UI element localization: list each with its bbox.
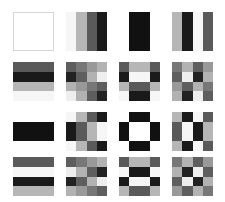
basis-pixel <box>66 91 76 101</box>
basis-pixel <box>87 62 97 72</box>
basis-cell-2-0 <box>13 112 54 151</box>
basis-pixel <box>97 157 107 167</box>
basis-pixel <box>76 177 86 187</box>
basis-pixel <box>193 12 203 22</box>
basis-pixel <box>140 32 150 42</box>
basis-pixel <box>44 82 54 92</box>
basis-pixel <box>172 132 182 142</box>
basis-pixel <box>66 82 76 92</box>
basis-pixel <box>23 186 33 196</box>
basis-pixel <box>66 41 76 51</box>
basis-pixel <box>66 177 76 187</box>
basis-cell-3-1 <box>66 157 107 196</box>
basis-pixel <box>140 41 150 51</box>
basis-pixel <box>140 122 150 132</box>
basis-pixel <box>182 72 192 82</box>
basis-pixel <box>119 177 129 187</box>
basis-pixel <box>182 132 192 142</box>
basis-pixel <box>193 22 203 32</box>
basis-pixel <box>34 132 44 142</box>
basis-pixel <box>203 12 213 22</box>
basis-pixel <box>13 82 23 92</box>
basis-pixel <box>66 141 76 151</box>
basis-pixel <box>193 186 203 196</box>
basis-pixel <box>23 167 33 177</box>
basis-pixel <box>203 91 213 101</box>
basis-pixel <box>13 157 23 167</box>
basis-pixel <box>24 41 34 50</box>
basis-pixel <box>203 82 213 92</box>
basis-pixel <box>172 91 182 101</box>
basis-pixel <box>87 82 97 92</box>
basis-pixel <box>44 112 54 122</box>
basis-pixel <box>76 32 86 42</box>
basis-pixel <box>34 141 44 151</box>
basis-pixel <box>182 12 192 22</box>
basis-pixel <box>13 112 23 122</box>
basis-pixel <box>140 82 150 92</box>
basis-pixel <box>150 62 160 72</box>
basis-pixel <box>76 41 86 51</box>
basis-pixel <box>182 186 192 196</box>
basis-pixel <box>13 177 23 187</box>
basis-pixel <box>13 122 23 132</box>
basis-pixel <box>76 91 86 101</box>
basis-cell-1-1 <box>66 62 107 101</box>
basis-pixel <box>43 22 53 31</box>
basis-pixel <box>193 122 203 132</box>
basis-pixel <box>76 82 86 92</box>
basis-pixel <box>150 177 160 187</box>
basis-pixel <box>24 13 34 22</box>
basis-pixel <box>87 157 97 167</box>
basis-pixel <box>87 177 97 187</box>
basis-pixel <box>14 22 24 31</box>
basis-pixel <box>97 112 107 122</box>
basis-pixel <box>97 122 107 132</box>
basis-pixel <box>97 177 107 187</box>
basis-pixel <box>140 186 150 196</box>
basis-pixel <box>66 12 76 22</box>
basis-pixel <box>34 82 44 92</box>
basis-pixel <box>193 32 203 42</box>
basis-pixel <box>76 112 86 122</box>
basis-pixel <box>43 41 53 50</box>
basis-pixel <box>203 132 213 142</box>
basis-pixel <box>203 122 213 132</box>
basis-pixel <box>34 157 44 167</box>
basis-pixel <box>150 122 160 132</box>
basis-pixel <box>203 62 213 72</box>
basis-pixel <box>97 22 107 32</box>
basis-pixel <box>129 82 139 92</box>
basis-pixel <box>66 32 76 42</box>
basis-pixel <box>129 62 139 72</box>
basis-pixel <box>87 72 97 82</box>
basis-pixel <box>14 32 24 41</box>
basis-cell-0-0 <box>13 12 54 51</box>
basis-pixel <box>76 167 86 177</box>
basis-pixel <box>193 82 203 92</box>
basis-pixel <box>34 112 44 122</box>
basis-pixel <box>76 132 86 142</box>
basis-pixel <box>129 122 139 132</box>
dct-basis-grid <box>0 0 225 202</box>
basis-pixel <box>140 132 150 142</box>
basis-pixel <box>203 141 213 151</box>
basis-pixel <box>76 72 86 82</box>
basis-pixel <box>172 22 182 32</box>
basis-pixel <box>129 177 139 187</box>
basis-pixel <box>23 157 33 167</box>
basis-pixel <box>97 72 107 82</box>
basis-pixel <box>23 141 33 151</box>
basis-cell-1-2 <box>119 62 160 101</box>
basis-pixel <box>66 62 76 72</box>
basis-pixel <box>129 41 139 51</box>
basis-pixel <box>119 41 129 51</box>
basis-pixel <box>44 186 54 196</box>
basis-pixel <box>119 186 129 196</box>
basis-pixel <box>87 91 97 101</box>
basis-pixel <box>23 91 33 101</box>
basis-pixel <box>140 141 150 151</box>
basis-pixel <box>119 32 129 42</box>
basis-pixel <box>129 167 139 177</box>
basis-pixel <box>182 177 192 187</box>
